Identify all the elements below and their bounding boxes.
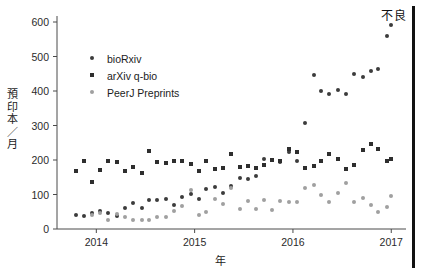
legend-label: bioRxiv bbox=[107, 53, 141, 65]
y-tick-400: 400 bbox=[15, 85, 49, 97]
legend-label: PeerJ Preprints bbox=[107, 87, 179, 99]
y-tick-100: 100 bbox=[15, 189, 49, 201]
chart-legend: bioRxivarXiv q-bioPeerJ Preprints bbox=[92, 52, 179, 103]
x-tick-2015: 2015 bbox=[173, 236, 217, 248]
legend-label: arXiv q-bio bbox=[107, 70, 157, 82]
x-tick-2014: 2014 bbox=[74, 236, 118, 248]
legend-item-1: arXiv q-bio bbox=[92, 69, 179, 83]
y-tick-500: 500 bbox=[15, 51, 49, 63]
y-tick-600: 600 bbox=[15, 16, 49, 28]
vertical-rule bbox=[412, 6, 415, 268]
chart-figure: 預印本／月 年 0100200300400500600 201420152016… bbox=[0, 0, 428, 275]
x-axis-label: 年 bbox=[0, 252, 428, 268]
y-tick-0: 0 bbox=[15, 223, 49, 235]
legend-item-2: PeerJ Preprints bbox=[92, 86, 179, 100]
x-tick-2017: 2017 bbox=[369, 236, 413, 248]
y-tick-300: 300 bbox=[15, 120, 49, 132]
y-tick-200: 200 bbox=[15, 154, 49, 166]
x-axis-label-text: 年 bbox=[203, 255, 226, 267]
annotation-label: 不良 bbox=[381, 6, 407, 23]
x-tick-2016: 2016 bbox=[271, 236, 315, 248]
chart-axes bbox=[0, 0, 428, 275]
legend-item-0: bioRxiv bbox=[92, 52, 179, 66]
